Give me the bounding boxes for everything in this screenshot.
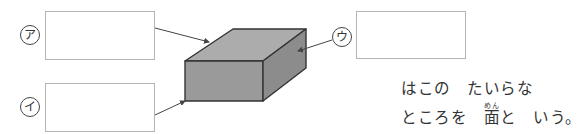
caption-line-1: はこの たいらな xyxy=(401,76,582,102)
caption: はこの たいらな ところを 面めんと いう。 xyxy=(401,76,582,131)
front-face xyxy=(185,61,263,101)
kanji-men: 面めん xyxy=(484,109,501,127)
caption-line-2: ところを 面めんと いう。 xyxy=(401,102,582,131)
kanji: 面 xyxy=(484,109,501,127)
caption-line-2-before: ところを xyxy=(401,109,484,127)
caption-line-2-after: と いう。 xyxy=(500,109,582,127)
arrow-i xyxy=(155,101,185,115)
arrow-a xyxy=(155,28,209,42)
ruby-men: めん xyxy=(484,102,501,110)
